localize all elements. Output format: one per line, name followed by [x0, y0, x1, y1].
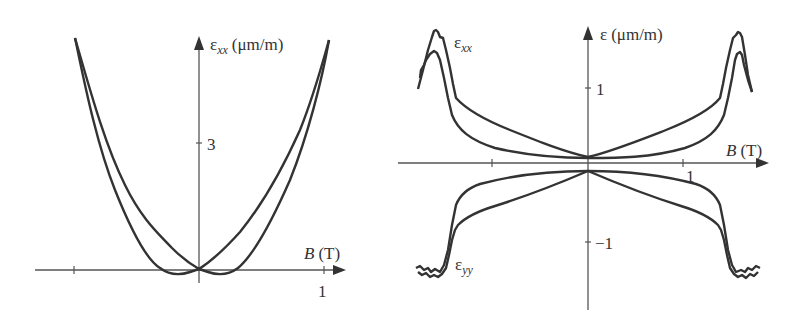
left-y-axis-arrow-icon — [194, 36, 204, 50]
right-y-tick-label-neg1: −1 — [595, 234, 613, 253]
left-y-tick-label-3: 3 — [207, 135, 216, 154]
left-x-axis-label: B(T) — [304, 244, 340, 263]
right-x-axis-label: B(T) — [726, 141, 762, 160]
left-chart: εxx(μm/m) 3 B(T) 1 — [35, 35, 346, 301]
left-curve-branch-b — [75, 38, 329, 269]
right-chart: ε(μm/m) 1 −1 B(T) 1 εxx εyy — [398, 25, 769, 310]
right-x-tick-label-1: 1 — [686, 167, 695, 186]
left-x-tick-label-1: 1 — [318, 282, 327, 301]
label-eyy: εyy — [455, 255, 473, 277]
label-exx: εxx — [454, 33, 472, 55]
right-y-axis-label: ε(μm/m) — [600, 25, 663, 44]
right-y-axis-arrow-icon — [583, 26, 593, 40]
right-curve-exx-inner — [420, 51, 752, 158]
left-y-axis-label: εxx(μm/m) — [210, 35, 283, 57]
right-y-tick-label-1: 1 — [596, 80, 605, 99]
left-x-axis-arrow-icon — [333, 265, 346, 275]
